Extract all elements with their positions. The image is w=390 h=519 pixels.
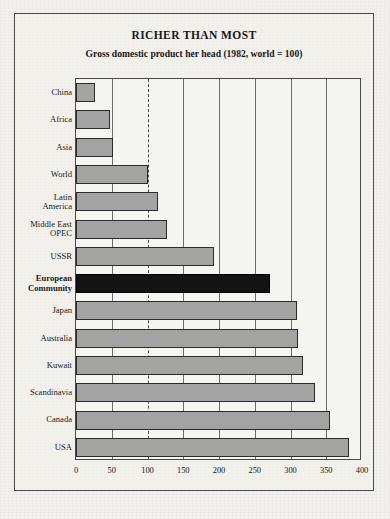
category-label-line: Japan [20, 306, 72, 315]
category-label-line: Canada [20, 415, 72, 424]
category-label-line: World [20, 170, 72, 179]
category-label-line: Australia [20, 334, 72, 343]
category-label-asia: Asia [20, 143, 72, 152]
scanned-page-background: RICHER THAN MOST Gross domestic product … [0, 0, 390, 519]
bar-japan [76, 301, 297, 320]
category-label-line: Asia [20, 143, 72, 152]
category-label-scandinavia: Scandinavia [20, 388, 72, 397]
category-label-european-community: EuropeanCommunity [20, 274, 72, 292]
bar-scandinavia [76, 383, 315, 402]
x-tick-label-100: 100 [141, 466, 154, 475]
bar-ussr [76, 247, 214, 266]
category-label-latin-america: LatinAmerica [20, 193, 72, 211]
x-tick-label-150: 150 [177, 466, 190, 475]
bar-latin-america [76, 192, 158, 211]
category-label-line: America [20, 202, 72, 211]
bar-asia [76, 138, 113, 157]
category-label-line: USSR [20, 252, 72, 261]
bar-world [76, 165, 148, 184]
x-tick-label-0: 0 [74, 466, 78, 475]
bar-kuwait [76, 356, 303, 375]
category-label-line: Africa [20, 115, 72, 124]
category-label-line: Community [20, 284, 72, 293]
category-label-usa: USA [20, 443, 72, 452]
category-label-canada: Canada [20, 415, 72, 424]
category-label-line: Kuwait [20, 361, 72, 370]
bar-usa [76, 438, 349, 457]
category-label-kuwait: Kuwait [20, 361, 72, 370]
bar-canada [76, 411, 330, 430]
category-label-china: China [20, 88, 72, 97]
x-tick-label-400: 400 [356, 466, 369, 475]
bar-european-community [76, 274, 270, 293]
x-tick-label-250: 250 [248, 466, 261, 475]
plot-area: ChinaAfricaAsiaWorldLatinAmericaMiddle E… [75, 78, 361, 460]
x-tick-label-350: 350 [320, 466, 333, 475]
category-label-line: China [20, 88, 72, 97]
category-label-middle-east-opec: Middle EastOPEC [20, 220, 72, 238]
bar-china [76, 83, 95, 102]
category-label-world: World [20, 170, 72, 179]
category-label-australia: Australia [20, 334, 72, 343]
x-tick-label-50: 50 [108, 466, 116, 475]
category-label-line: Scandinavia [20, 388, 72, 397]
x-axis-tick-labels: 050100150200250300350400 [76, 463, 362, 479]
bar-africa [76, 110, 110, 129]
category-label-japan: Japan [20, 306, 72, 315]
category-label-line: USA [20, 443, 72, 452]
x-tick-label-300: 300 [284, 466, 297, 475]
bars-layer [76, 79, 360, 459]
chart-subtitle: Gross domestic product her head (1982, w… [15, 48, 373, 59]
chart-figure-frame: RICHER THAN MOST Gross domestic product … [14, 13, 374, 491]
category-label-ussr: USSR [20, 252, 72, 261]
x-tick-label-200: 200 [213, 466, 226, 475]
category-label-line: OPEC [20, 229, 72, 238]
bar-middle-east-opec [76, 220, 167, 239]
bar-australia [76, 329, 298, 348]
category-label-africa: Africa [20, 115, 72, 124]
chart-title: RICHER THAN MOST [15, 29, 373, 41]
